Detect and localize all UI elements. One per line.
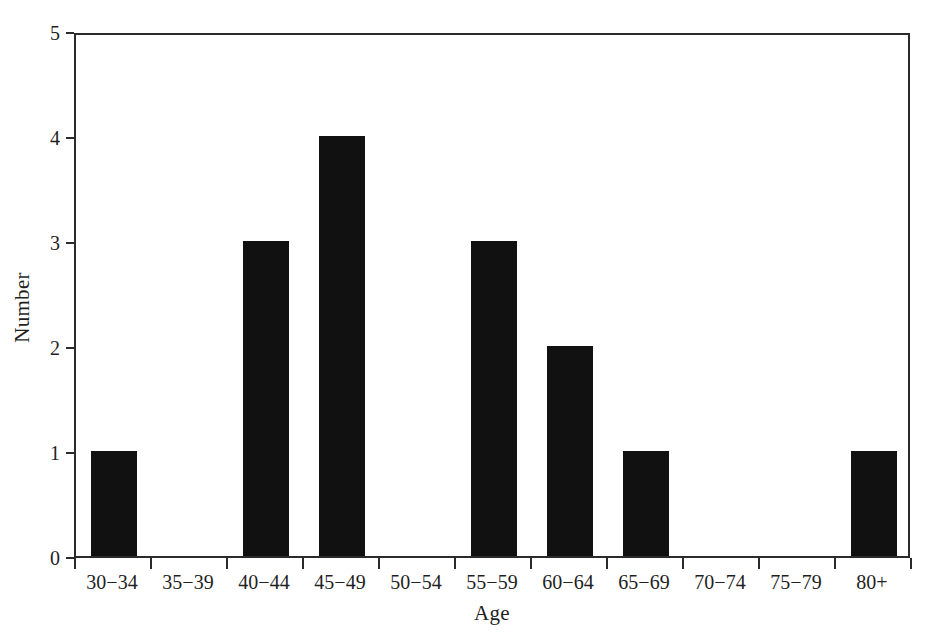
x-axis-tick-mark — [226, 558, 228, 569]
y-axis-title: Number — [10, 248, 35, 368]
x-axis-tick-label: 40−44 — [238, 570, 289, 594]
x-axis-tick-mark — [378, 558, 380, 569]
bar[interactable] — [243, 241, 289, 556]
y-axis-tick-mark — [66, 452, 74, 454]
x-axis-tick-label: 65−69 — [618, 570, 669, 594]
bar-slot — [76, 35, 152, 556]
y-axis-tick-mark — [66, 557, 74, 559]
bar[interactable] — [547, 346, 593, 556]
x-axis-tick-label: 70−74 — [694, 570, 745, 594]
y-axis-tick-label: 0 — [50, 548, 60, 568]
bar-slot — [532, 35, 608, 556]
x-axis-tick-mark — [74, 558, 76, 569]
y-axis-tick-label: 5 — [50, 23, 60, 43]
bar[interactable] — [471, 241, 517, 556]
bar-slot — [684, 35, 760, 556]
x-axis-tick-mark — [910, 558, 912, 569]
bar[interactable] — [851, 451, 897, 556]
x-axis-tick-label: 50−54 — [390, 570, 441, 594]
x-axis-tick-mark — [758, 558, 760, 569]
bar-slot — [304, 35, 380, 556]
y-axis-tick-label: 3 — [50, 233, 60, 253]
bar-slot — [760, 35, 836, 556]
bar-slot — [228, 35, 304, 556]
x-axis-tick-labels: 30−3435−3940−4445−4950−5455−5960−6465−69… — [74, 570, 910, 600]
x-axis-tick-label: 45−49 — [314, 570, 365, 594]
x-axis-tick-marks — [74, 558, 910, 570]
x-axis-tick-mark — [150, 558, 152, 569]
bar-slot — [152, 35, 228, 556]
x-axis-tick-label: 35−39 — [162, 570, 213, 594]
y-axis-tick-mark — [66, 242, 74, 244]
x-axis-tick-mark — [302, 558, 304, 569]
bar-slot — [456, 35, 532, 556]
x-axis-tick-label: 60−64 — [542, 570, 593, 594]
x-axis-title: Age — [74, 601, 910, 626]
y-axis-tick-mark — [66, 32, 74, 34]
x-axis-tick-label: 80+ — [856, 570, 887, 594]
bar-slot — [380, 35, 456, 556]
y-axis-tick-mark — [66, 137, 74, 139]
x-axis-tick-mark — [682, 558, 684, 569]
bar[interactable] — [319, 136, 365, 556]
y-axis-tick-label: 1 — [50, 443, 60, 463]
bars-layer — [76, 35, 908, 556]
bar[interactable] — [623, 451, 669, 556]
bar-slot — [836, 35, 912, 556]
y-axis-tick-mark — [66, 347, 74, 349]
x-axis-tick-mark — [454, 558, 456, 569]
plot-area — [74, 33, 910, 558]
x-axis-tick-label: 30−34 — [86, 570, 137, 594]
y-axis-tick-label: 4 — [50, 128, 60, 148]
x-axis-tick-mark — [834, 558, 836, 569]
bar-chart-figure: 012345 Number 30−3435−3940−4445−4950−545… — [0, 0, 933, 643]
y-axis-tick-label: 2 — [50, 338, 60, 358]
x-axis-tick-label: 75−79 — [770, 570, 821, 594]
x-axis-tick-mark — [530, 558, 532, 569]
bar-slot — [608, 35, 684, 556]
x-axis-tick-mark — [606, 558, 608, 569]
x-axis-tick-label: 55−59 — [466, 570, 517, 594]
bar[interactable] — [91, 451, 137, 556]
